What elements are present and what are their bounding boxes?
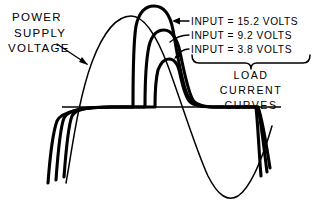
- supply-label-line-3: VOLTAGE: [8, 42, 70, 54]
- group-label-line-2: CURRENT: [220, 84, 282, 96]
- waveform-figure: POWER SUPPLY VOLTAGE INPUT = 15.2 VOLTS …: [0, 0, 320, 214]
- arrowhead-15v: [172, 18, 180, 25]
- group-brace: [192, 55, 310, 69]
- waveform-canvas: POWER SUPPLY VOLTAGE INPUT = 15.2 VOLTS …: [0, 0, 320, 214]
- input-label-15v: INPUT = 15.2 VOLTS: [191, 16, 298, 27]
- arrowhead-supply: [79, 57, 88, 65]
- input-label-9v: INPUT = 9.2 VOLTS: [191, 30, 292, 41]
- group-label-line-3: CURVES: [225, 99, 278, 111]
- supply-label-line-2: SUPPLY: [14, 27, 66, 39]
- group-label-line-1: LOAD: [234, 69, 269, 81]
- supply-label-line-1: POWER: [12, 11, 62, 23]
- load-current-curve-3v: [48, 59, 261, 183]
- input-label-3v: INPUT = 3.8 VOLTS: [191, 44, 292, 55]
